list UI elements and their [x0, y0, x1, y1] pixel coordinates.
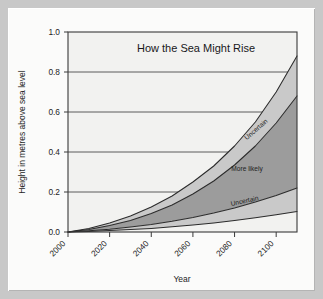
x-tick-label-2020: 2020 [89, 238, 109, 258]
y-tick-label-0.4: 0.4 [48, 147, 60, 157]
chart-title: How the Sea Might Rise [137, 42, 255, 54]
band-annotation-1: More likely [231, 165, 263, 173]
figure-panel: 0.00.20.40.60.81.0 200020202040206020802… [8, 8, 315, 291]
y-tick-label-0.8: 0.8 [48, 67, 60, 77]
figure-outer-frame: 0.00.20.40.60.81.0 200020202040206020802… [0, 0, 323, 299]
y-axis-title: Height in metres above sea level [17, 70, 27, 193]
y-tick-label-1.0: 1.0 [48, 27, 60, 37]
chart-svg: 0.00.20.40.60.81.0 200020202040206020802… [8, 8, 315, 291]
sea-level-rise-chart: 0.00.20.40.60.81.0 200020202040206020802… [8, 8, 315, 291]
y-tick-label-0.0: 0.0 [48, 227, 60, 237]
x-tick-label-2100: 2100 [255, 238, 275, 258]
x-tick-label-2000: 2000 [47, 238, 67, 258]
x-tick-label-2040: 2040 [131, 238, 151, 258]
x-tick-label-2060: 2060 [172, 238, 192, 258]
y-tick-label-0.6: 0.6 [48, 107, 60, 117]
x-axis-ticks: 200020202040206020802100 [47, 232, 276, 258]
x-axis-title: Year [173, 274, 190, 284]
y-axis-ticks: 0.00.20.40.60.81.0 [48, 27, 68, 237]
y-tick-label-0.2: 0.2 [48, 187, 60, 197]
x-tick-label-2080: 2080 [214, 238, 234, 258]
